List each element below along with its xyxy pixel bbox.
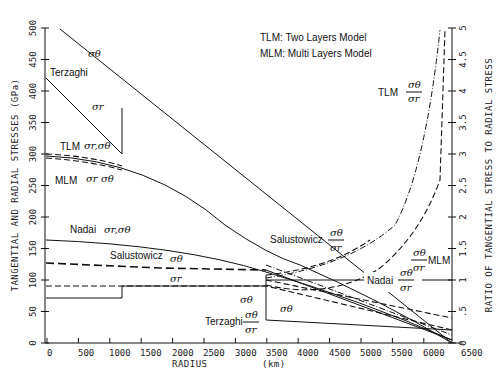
legend-mlm: MLM: Multi Layers Model (260, 48, 372, 59)
svg-text:σr: σr (408, 93, 421, 104)
x-tick-labels: 0 500 1000 1500 2000 2500 3000 3500 4000… (47, 348, 483, 358)
terzaghi-sigma-theta-line (60, 29, 452, 343)
svg-text:σθ: σθ (408, 79, 421, 90)
svg-text:5500: 5500 (391, 348, 413, 358)
x-axis-unit: (km) (262, 359, 286, 369)
svg-text:0: 0 (47, 348, 52, 358)
salustowicz-sigma-theta-curve (46, 263, 266, 270)
nadai-label: Nadai (70, 224, 96, 235)
salustowicz-label: Salustowicz (110, 250, 163, 261)
x-axis-label: RADIUS (172, 359, 208, 369)
svg-text:σr: σr (86, 173, 99, 184)
svg-text:4000: 4000 (297, 348, 319, 358)
svg-text:6500: 6500 (461, 348, 483, 358)
mlm-label: MLM (55, 175, 77, 186)
terzaghi-ratio-label: Terzaghi (205, 316, 243, 327)
nadai-ratio-label: Nadai (367, 275, 393, 286)
svg-text:2500: 2500 (203, 348, 225, 358)
svg-text:500: 500 (28, 20, 38, 36)
y-axis-label: TANGENTIAL AND RADIAL STRESSES (GPa) (10, 78, 20, 291)
svg-text:1.5: 1.5 (458, 240, 468, 256)
svg-text:2000: 2000 (172, 348, 194, 358)
svg-text:σθ: σθ (245, 309, 258, 320)
y2-axis-label: RATIO OF TANGENTIAL STRESS TO RADIAL STR… (484, 58, 494, 313)
svg-text:σθ: σθ (240, 294, 253, 305)
terzaghi-sigma-r-label: σr (92, 101, 105, 112)
svg-text:σθ: σθ (170, 253, 183, 264)
svg-text:σr,σθ: σr,σθ (104, 224, 131, 235)
svg-text:450: 450 (28, 51, 38, 67)
svg-text:200: 200 (28, 209, 38, 225)
convergence-line-3 (266, 280, 452, 318)
svg-text:150: 150 (28, 240, 38, 256)
svg-text:σθ: σθ (413, 247, 426, 258)
terzaghi-sigma-theta-label: σθ (88, 48, 101, 59)
svg-text:σθ: σθ (101, 173, 114, 184)
svg-text:2.5: 2.5 (458, 177, 468, 193)
x-ticks (47, 338, 424, 343)
salustowicz-ratio-label: Salustowicz (270, 234, 323, 245)
svg-text:300: 300 (28, 146, 38, 162)
terzaghi-label: Terzaghi (50, 67, 88, 78)
svg-text:σθ: σθ (330, 227, 343, 238)
stress-chart: 0 50 100 150 200 250 300 350 400 450 500… (0, 0, 502, 386)
left-tick-labels: 0 50 100 150 200 250 300 350 400 450 500 (28, 20, 38, 346)
svg-text:250: 250 (28, 177, 38, 193)
svg-text:5: 5 (458, 25, 468, 30)
svg-text:400: 400 (28, 83, 38, 99)
svg-text:1000: 1000 (109, 348, 131, 358)
svg-text:1500: 1500 (140, 348, 162, 358)
svg-text:3000: 3000 (235, 348, 257, 358)
svg-text:0: 0 (28, 340, 38, 345)
svg-text:3.5: 3.5 (458, 114, 468, 130)
terzaghi-inner-step (46, 286, 266, 298)
svg-text:σr: σr (170, 273, 183, 284)
svg-text:4500: 4500 (329, 348, 351, 358)
svg-text:σθ: σθ (280, 303, 293, 314)
svg-text:2: 2 (458, 214, 468, 219)
svg-text:4: 4 (458, 88, 468, 93)
right-tick-labels: 0 .5 1 1.5 2 2.5 3 3.5 4 4.5 5 (458, 25, 468, 345)
svg-text:σr: σr (330, 242, 343, 253)
svg-text:100: 100 (28, 272, 38, 288)
svg-text:σr: σr (245, 324, 258, 335)
tlm-ratio-label: TLM (378, 87, 398, 98)
svg-text:500: 500 (78, 348, 94, 358)
svg-text:1: 1 (458, 277, 468, 282)
mlm-ratio-label: MLM (428, 255, 450, 266)
svg-text:3500: 3500 (266, 348, 288, 358)
svg-text:4.5: 4.5 (458, 51, 468, 67)
tlm-label: TLM (60, 141, 80, 152)
svg-text:σr: σr (413, 262, 426, 273)
svg-text:3: 3 (458, 151, 468, 156)
svg-text:6000: 6000 (423, 348, 445, 358)
legend-tlm: TLM: Two Layers Model (260, 32, 367, 43)
svg-text:σθ: σθ (400, 267, 413, 278)
svg-text:350: 350 (28, 114, 38, 130)
svg-text:50: 50 (28, 306, 38, 317)
tlm-sigma-label: σr,σθ (84, 140, 111, 151)
svg-text:σr: σr (400, 282, 413, 293)
svg-text:5000: 5000 (360, 348, 382, 358)
svg-text:0: 0 (458, 340, 468, 345)
svg-text:.5: .5 (458, 306, 468, 317)
